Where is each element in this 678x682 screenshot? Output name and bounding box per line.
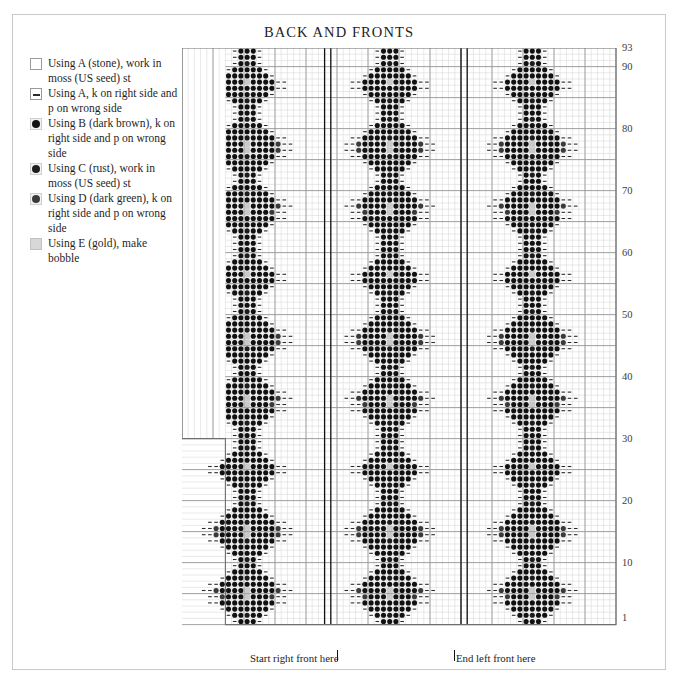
page-title: BACK AND FRONTS <box>0 24 678 41</box>
dash-square-icon <box>30 88 42 100</box>
knitting-chart <box>182 48 618 627</box>
row-number-label: 1 <box>622 612 627 623</box>
chart-canvas <box>182 48 618 627</box>
legend-item-a-knit: Using A, k on right side and p on wrong … <box>30 86 180 115</box>
row-number-label: 60 <box>622 247 633 258</box>
legend-item-label: Using C (rust), work in moss (US seed) s… <box>48 161 180 190</box>
legend-item-c-rust: Using C (rust), work in moss (US seed) s… <box>30 161 180 190</box>
dark-green-dot-icon <box>30 193 42 205</box>
legend: Using A (stone), work in moss (US seed) … <box>30 56 180 266</box>
row-number-label: 80 <box>622 123 633 134</box>
row-number-label: 70 <box>622 185 633 196</box>
dark-brown-dot-icon <box>30 118 42 130</box>
rust-dot-icon <box>30 163 42 175</box>
row-number-label: 30 <box>622 433 633 444</box>
legend-item-label: Using B (dark brown), k on right side an… <box>48 116 180 160</box>
row-number-label: 20 <box>622 495 633 506</box>
legend-item-label: Using A (stone), work in moss (US seed) … <box>48 56 180 85</box>
legend-item-label: Using D (dark green), k on right side an… <box>48 191 180 235</box>
end-left-front-tick <box>454 650 455 661</box>
legend-item-e-gold: Using E (gold), make bobble <box>30 236 180 265</box>
row-number-label: 10 <box>622 557 633 568</box>
row-number-label: 50 <box>622 309 633 320</box>
legend-item-d-dark-green: Using D (dark green), k on right side an… <box>30 191 180 235</box>
legend-item-b-dark-brown: Using B (dark brown), k on right side an… <box>30 116 180 160</box>
blank-square-icon <box>30 58 42 70</box>
row-number-label: 90 <box>622 61 633 72</box>
end-left-front-caption: End left front here <box>456 652 535 664</box>
legend-item-a-moss: Using A (stone), work in moss (US seed) … <box>30 56 180 85</box>
legend-item-label: Using A, k on right side and p on wrong … <box>48 86 180 115</box>
legend-item-label: Using E (gold), make bobble <box>48 236 180 265</box>
row-number-label: 93 <box>622 42 633 53</box>
row-number-label: 40 <box>622 371 633 382</box>
start-right-front-caption: Start right front here <box>250 652 338 664</box>
chart-page: BACK AND FRONTS Using A (stone), work in… <box>0 0 678 682</box>
gold-square-icon <box>30 238 42 250</box>
